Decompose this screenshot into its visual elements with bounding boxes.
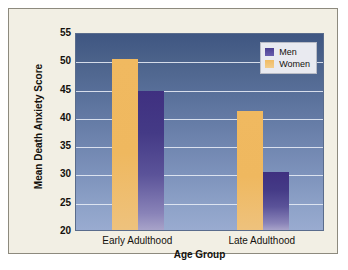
- y-tick-label: 40: [49, 113, 71, 123]
- y-axis-title: Mean Death Anxiety Score: [33, 47, 44, 207]
- legend-label-women: Women: [279, 59, 310, 70]
- legend: Men Women: [260, 42, 317, 74]
- legend-swatch-men-icon: [265, 48, 274, 56]
- legend-item-women: Women: [265, 58, 310, 70]
- chart-figure: Mean Death Anxiety Score 202530354045505…: [0, 0, 348, 270]
- x-axis-tick-labels: Early AdulthoodLate Adulthood: [75, 235, 324, 249]
- bar-women-2: [237, 111, 263, 230]
- legend-swatch-women-icon: [265, 60, 274, 68]
- plot-area: Men Women: [75, 33, 324, 231]
- x-tick-label: Early Adulthood: [77, 235, 197, 246]
- y-tick-label: 55: [49, 28, 71, 38]
- legend-item-men: Men: [265, 46, 310, 58]
- y-tick-label: 45: [49, 85, 71, 95]
- y-tick-label: 35: [49, 141, 71, 151]
- y-tick-label: 30: [49, 169, 71, 179]
- bar-women-1: [112, 59, 138, 230]
- legend-label-men: Men: [279, 47, 297, 58]
- figure-frame: Mean Death Anxiety Score 202530354045505…: [8, 8, 338, 254]
- y-tick-label: 20: [49, 226, 71, 236]
- bar-men-1: [138, 91, 164, 230]
- x-axis-title: Age Group: [75, 249, 324, 260]
- y-axis-tick-labels: 2025303540455055: [45, 33, 71, 231]
- x-tick-label: Late Adulthood: [202, 235, 322, 246]
- y-tick-label: 50: [49, 56, 71, 66]
- bar-men-2: [263, 172, 289, 230]
- y-tick-label: 25: [49, 198, 71, 208]
